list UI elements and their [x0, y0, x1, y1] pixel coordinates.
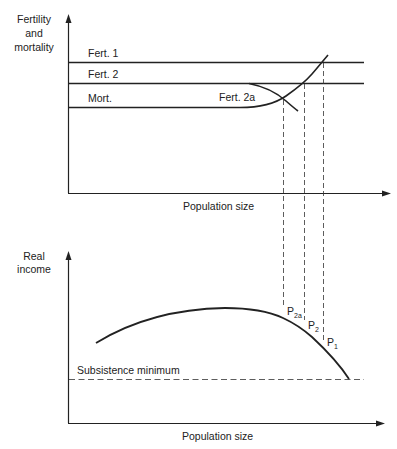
top-chart: [66, 14, 392, 340]
top-y-axis-label-line-2: and: [6, 26, 62, 40]
fert1-label: Fert. 1: [88, 47, 118, 59]
top-y-axis-label-line-1: Fertility: [6, 12, 62, 26]
mortality-label: Mort.: [88, 92, 112, 104]
top-y-axis-label: Fertility and mortality: [6, 12, 62, 54]
bottom-x-axis-arrow-icon: [376, 421, 385, 427]
bottom-x-axis-label: Population size: [182, 430, 253, 442]
bottom-y-axis-arrow-icon: [66, 251, 72, 260]
p1-marker-label: P1: [327, 336, 338, 350]
bottom-y-axis-label-line-1: Real: [14, 250, 54, 263]
top-y-axis-label-line-3: mortality: [6, 40, 62, 54]
p2-main: P: [308, 319, 315, 331]
bottom-y-axis-label-line-2: income: [14, 263, 54, 276]
bottom-y-axis-label: Real income: [14, 250, 54, 276]
fert2-label: Fert. 2: [88, 68, 118, 80]
p2a-main: P: [287, 305, 294, 317]
top-y-axis-arrow-icon: [66, 14, 72, 23]
top-x-axis-label: Population size: [183, 200, 254, 212]
p1-main: P: [327, 336, 334, 348]
diagram-canvas: [0, 0, 397, 449]
p1-sub: 1: [334, 343, 338, 350]
top-x-axis-arrow-icon: [382, 191, 391, 197]
p2-sub: 2: [315, 326, 319, 333]
fert2a-label: Fert. 2a: [219, 91, 255, 103]
p2a-marker-label: P2a: [287, 305, 302, 319]
p2-marker-label: P2: [308, 319, 319, 333]
p2a-sub: 2a: [294, 312, 302, 319]
subsistence-minimum-label: Subsistence minimum: [77, 364, 180, 376]
